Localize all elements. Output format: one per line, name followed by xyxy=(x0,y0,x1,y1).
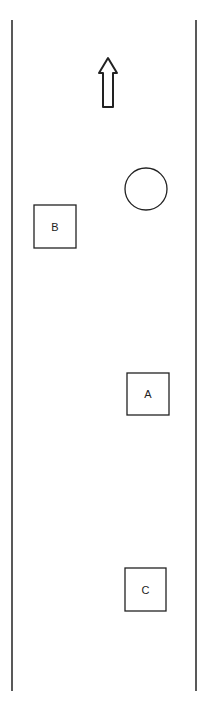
box-b: B xyxy=(34,205,76,248)
box-b-label: B xyxy=(51,221,58,233)
box-c: C xyxy=(125,568,166,611)
box-c-label: C xyxy=(142,584,150,596)
circle-object xyxy=(125,168,167,210)
box-a: A xyxy=(127,373,169,415)
road-diagram: B A C xyxy=(0,0,216,726)
arrow-up-icon xyxy=(99,58,117,107)
box-a-label: A xyxy=(144,388,152,400)
